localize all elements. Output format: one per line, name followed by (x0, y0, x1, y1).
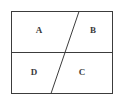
region-label-c: C (79, 68, 86, 77)
region-label-a: A (36, 26, 43, 35)
partitioned-rectangle-svg (0, 0, 123, 104)
region-label-d: D (31, 68, 38, 77)
figure-diagram: A B D C (0, 0, 123, 104)
region-label-b: B (90, 26, 96, 35)
